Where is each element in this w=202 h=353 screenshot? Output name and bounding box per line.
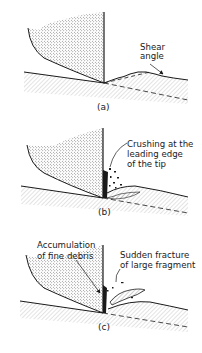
label-fracture-1: Sudden fracture	[120, 250, 189, 260]
panel-a: Shear angle (a)	[24, 12, 188, 112]
label-fracture-2: of large fragment	[120, 260, 196, 270]
debris-particles	[109, 168, 122, 189]
caption-a: (a)	[97, 102, 110, 112]
cutting-tool-b	[27, 128, 103, 198]
caption-b: (b)	[98, 207, 111, 217]
label-angle: angle	[140, 51, 164, 61]
label-crushing-1: Crushing at the	[127, 139, 193, 149]
label-crushing-3: of the tip	[127, 159, 166, 169]
tool-wear-diagram: Shear angle (a) Crushing at the leading …	[0, 0, 202, 353]
label-accumulation-1: Accumulation	[37, 240, 96, 250]
panel-b: Crushing at the leading edge of the tip …	[21, 128, 193, 217]
label-accumulation-2: of fine debris	[37, 251, 94, 261]
caption-c: (c)	[98, 322, 110, 332]
panel-c: Accumulation of fine debris Sudden fract…	[20, 240, 196, 332]
label-crushing-2: leading edge	[127, 149, 183, 159]
cutting-tool-a	[28, 12, 104, 83]
fine-debris	[103, 285, 107, 313]
